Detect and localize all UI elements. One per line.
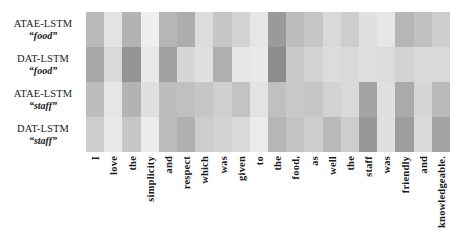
heatmap-cell — [304, 47, 322, 82]
x-axis-word-label: was — [381, 156, 392, 174]
heatmap-cell — [377, 47, 395, 82]
x-axis-word-label: which — [199, 156, 210, 184]
heatmap-cell — [122, 12, 140, 47]
heatmap-cell — [323, 12, 341, 47]
heatmap-row — [86, 12, 450, 47]
heatmap-cell — [341, 47, 359, 82]
x-axis-word-label: the — [272, 156, 283, 171]
heatmap-cell — [122, 82, 140, 117]
heatmap-cell — [359, 82, 377, 117]
row-label-model: ATAE-LSTM — [14, 18, 72, 30]
heatmap-cell — [159, 47, 177, 82]
heatmap-cell — [86, 12, 104, 47]
heatmap-cell — [159, 12, 177, 47]
heatmap-cell — [323, 47, 341, 82]
heatmap-cell — [395, 47, 413, 82]
heatmap-cell — [395, 82, 413, 117]
x-axis-label-slot: to — [250, 152, 268, 248]
x-axis-word-label: as — [308, 156, 319, 166]
row-label-aspect: “food” — [29, 30, 57, 41]
heatmap-row — [86, 47, 450, 82]
heatmap-cell — [213, 117, 231, 152]
row-label-aspect: “staff” — [29, 100, 57, 111]
heatmap-cell — [177, 82, 195, 117]
row-label-dat-lstm-food: DAT-LSTM “food” — [0, 47, 86, 82]
x-axis-word-label: was — [217, 156, 228, 174]
heatmap-cell — [177, 12, 195, 47]
x-axis-label-slot: simplicity — [141, 152, 159, 248]
x-axis-label-slot: knowledgeable. — [432, 152, 450, 248]
row-label-model: DAT-LSTM — [17, 123, 69, 135]
heatmap-cell — [414, 82, 432, 117]
heatmap-cell — [159, 117, 177, 152]
heatmap-cell — [232, 12, 250, 47]
heatmap-cell — [86, 47, 104, 82]
x-axis-label-slot: as — [304, 152, 322, 248]
heatmap-cell — [377, 117, 395, 152]
heatmap-cell — [122, 47, 140, 82]
row-label-atae-lstm-food: ATAE-LSTM “food” — [0, 12, 86, 47]
x-axis-label-slot: staff — [359, 152, 377, 248]
heatmap-cell — [122, 117, 140, 152]
heatmap-cell — [232, 117, 250, 152]
heatmap-cell — [286, 47, 304, 82]
heatmap-cell — [141, 117, 159, 152]
x-axis-label-slot: I — [86, 152, 104, 248]
x-axis-label-slot: was — [213, 152, 231, 248]
row-label-aspect: “food” — [29, 65, 57, 76]
x-axis-label-slot: was — [377, 152, 395, 248]
x-axis-word-label: the — [126, 156, 137, 171]
heatmap-cell — [268, 12, 286, 47]
x-axis-word-label: knowledgeable. — [435, 156, 446, 228]
heatmap-cell — [359, 47, 377, 82]
heatmap-cell — [250, 12, 268, 47]
heatmap-cell — [304, 12, 322, 47]
heatmap-cell — [323, 82, 341, 117]
x-axis-word-labels: Ilovethesimplicityandrespectwhichwasgive… — [86, 152, 450, 248]
heatmap-cell — [104, 82, 122, 117]
x-axis-word-label: staff — [363, 156, 374, 177]
x-axis-word-label: friendly — [399, 156, 410, 193]
heatmap-row — [86, 82, 450, 117]
heatmap-cell — [341, 82, 359, 117]
heatmap-cell — [141, 12, 159, 47]
x-axis-word-label: respect — [181, 156, 192, 189]
heatmap-cell — [195, 82, 213, 117]
heatmap-cell — [268, 47, 286, 82]
heatmap-cell — [195, 117, 213, 152]
x-axis-label-slot: the — [341, 152, 359, 248]
heatmap-cell — [250, 117, 268, 152]
x-axis-label-slot: and — [159, 152, 177, 248]
heatmap-cell — [213, 82, 231, 117]
heatmap-cell — [195, 12, 213, 47]
heatmap-cell — [432, 47, 450, 82]
heatmap-cell — [323, 117, 341, 152]
heatmap-cell — [395, 12, 413, 47]
x-axis-label-slot: and — [414, 152, 432, 248]
heatmap-row — [86, 117, 450, 152]
heatmap-cell — [213, 12, 231, 47]
heatmap-cell — [213, 47, 231, 82]
x-axis-word-label: food, — [290, 156, 301, 179]
x-axis-word-label: given — [235, 156, 246, 181]
row-label-model: ATAE-LSTM — [14, 88, 72, 100]
heatmap-cell — [304, 117, 322, 152]
x-axis-label-slot: food, — [286, 152, 304, 248]
row-label-column: ATAE-LSTM “food” DAT-LSTM “food” ATAE-LS… — [0, 12, 86, 152]
heatmap-cell — [104, 12, 122, 47]
heatmap-cell — [104, 47, 122, 82]
heatmap-cell — [432, 82, 450, 117]
heatmap-cell — [414, 12, 432, 47]
x-axis-label-slot: respect — [177, 152, 195, 248]
x-axis-word-label: simplicity — [144, 156, 155, 202]
heatmap-cell — [359, 117, 377, 152]
heatmap-cell — [141, 82, 159, 117]
heatmap-cell — [304, 82, 322, 117]
row-label-atae-lstm-staff: ATAE-LSTM “staff” — [0, 82, 86, 117]
heatmap-cell — [250, 47, 268, 82]
heatmap-grid — [86, 12, 450, 152]
heatmap-cell — [195, 47, 213, 82]
row-label-aspect: “staff” — [29, 135, 57, 146]
heatmap-cell — [432, 117, 450, 152]
heatmap-cell — [177, 47, 195, 82]
